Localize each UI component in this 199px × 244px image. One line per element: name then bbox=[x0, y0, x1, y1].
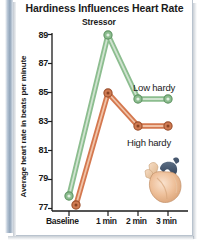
x-tick-label-1min: 1 min bbox=[96, 216, 117, 226]
plot-area bbox=[0, 0, 199, 244]
vessel-branch-shape bbox=[173, 158, 179, 164]
series-label-low-hardy: Low hardy bbox=[133, 82, 175, 93]
x-tick-label-3min: 3 min bbox=[156, 216, 177, 226]
chart-figure: Hardiness Influences Heart Rate Stressor… bbox=[0, 0, 199, 244]
x-tick-label-baseline: Baseline bbox=[46, 216, 79, 226]
heart-illustration bbox=[143, 155, 187, 205]
x-tick-label-2min: 2 min bbox=[126, 216, 147, 226]
series-label-high-hardy: High hardy bbox=[127, 137, 171, 148]
x-axis-ticks bbox=[69, 211, 168, 216]
heart-body-shape bbox=[149, 172, 181, 203]
